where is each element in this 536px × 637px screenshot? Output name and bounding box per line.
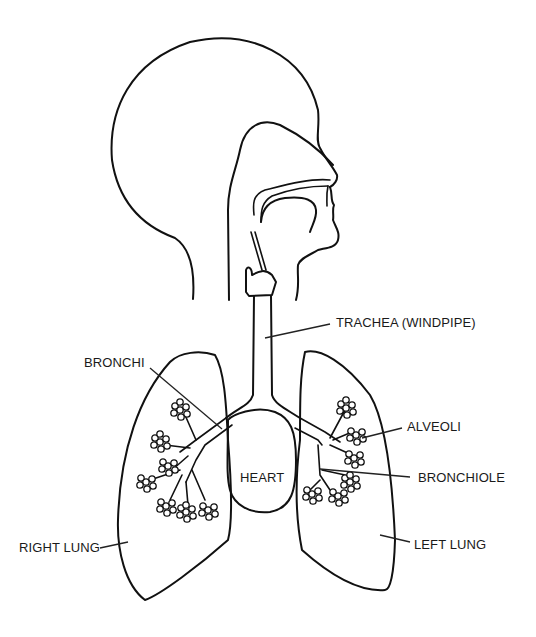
label-heart: HEART [240,470,284,485]
alveoli-clusters [137,397,366,522]
heart [228,410,297,513]
label-left-lung: LEFT LUNG [414,537,486,552]
label-bronchiole: BRONCHIOLE [418,470,505,485]
label-right-lung: RIGHT LUNG [19,540,100,555]
label-trachea: TRACHEA (WINDPIPE) [336,315,476,330]
trachea [226,296,300,418]
label-alveoli: ALVEOLI [407,419,461,434]
label-bronchi: BRONCHI [84,355,145,370]
head-outline [112,38,339,300]
